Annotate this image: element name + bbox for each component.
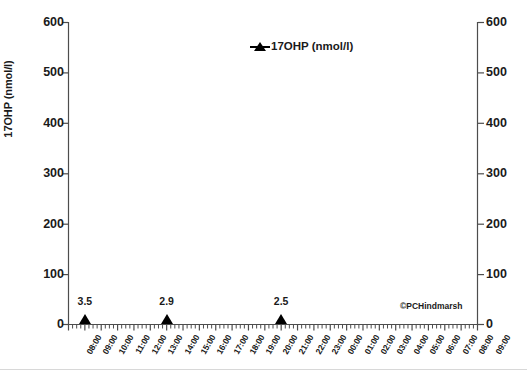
chart-legend: 17OHP (nmol/l) [250, 40, 353, 52]
y-tick-left-400: 400 [24, 117, 64, 130]
triangle-marker-icon [250, 40, 270, 52]
y-tick-left-500: 500 [24, 66, 64, 79]
chart-container: 17OHP (nmol/l) [0, 0, 527, 372]
y-tick-right-0: 0 [486, 318, 526, 331]
copyright-annotation: ©PCHindmarsh [400, 301, 462, 311]
y-axis-labels-left: 600 500 400 300 200 100 0 [22, 0, 64, 372]
data-point-label: 3.5 [78, 295, 93, 307]
y-tick-left-300: 300 [24, 167, 64, 180]
y-axis-labels-right: 600 500 400 300 200 100 0 [486, 0, 527, 372]
y-tick-right-300: 300 [486, 167, 526, 180]
bottom-divider [0, 369, 527, 370]
y-tick-right-400: 400 [486, 117, 526, 130]
y-tick-right-600: 600 [486, 16, 526, 29]
y-axis-ticks-right [478, 23, 484, 325]
x-axis-ticks [69, 325, 478, 331]
data-point-marker [275, 314, 287, 324]
legend-label-17ohp: 17OHP (nmol/l) [271, 40, 353, 52]
data-point-label: 2.5 [274, 295, 289, 307]
y-tick-right-500: 500 [486, 66, 526, 79]
data-point-marker [161, 314, 173, 324]
y-tick-right-100: 100 [486, 268, 526, 281]
y-tick-left-600: 600 [24, 16, 64, 29]
y-tick-left-200: 200 [24, 218, 64, 231]
data-point-marker [79, 314, 91, 324]
y-tick-left-100: 100 [24, 268, 64, 281]
data-point-label: 2.9 [159, 295, 174, 307]
y-tick-right-200: 200 [486, 218, 526, 231]
y-tick-left-0: 0 [24, 318, 64, 331]
